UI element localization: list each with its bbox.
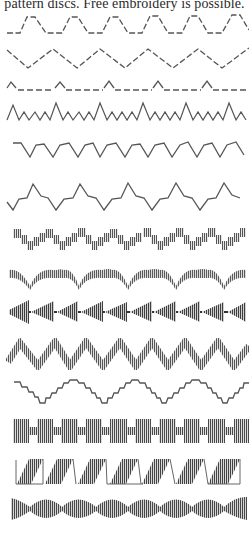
mixed-zigzag-stitch-icon [0,100,249,124]
stitch-sample-9 [0,298,249,328]
stitch-sample-11 [0,376,249,406]
stitch-sample-5 [0,140,249,160]
stitch-sample-2 [0,46,249,72]
stitch-sample-6 [0,180,249,212]
stitch-sample-13 [0,456,249,488]
stepped-satin-stitch-icon [0,226,249,256]
stitch-sample-14 [0,494,249,524]
stitch-sample-12 [0,416,249,446]
stitch-sample-7 [0,226,249,256]
oval-satin-stitch-icon [0,494,249,524]
v-dip-stitch-icon [0,140,249,160]
peaked-wave-stitch-icon [0,180,249,212]
zigzag-satin-stitch-icon [0,338,249,370]
stepped-wave-stitch-icon [0,376,249,406]
bar-block-satin-stitch-icon [0,416,249,446]
caption-text: pattern discs. Free embroidery is possib… [0,0,249,12]
stitch-sample-10 [0,338,249,370]
dashed-zigzag-stitch-icon [0,46,249,72]
triangle-satin-stitch-icon [0,298,249,328]
stitch-sample-4 [0,100,249,124]
dashed-trapezoid-stitch-icon [0,12,249,36]
stitch-sample-1 [0,12,249,36]
parallelogram-satin-stitch-icon [0,456,249,488]
stitch-sample-3 [0,78,249,94]
scallop-satin-stitch-icon [0,266,249,290]
stitch-sample-8 [0,266,249,290]
dashed-peak-stitch-icon [0,78,249,94]
